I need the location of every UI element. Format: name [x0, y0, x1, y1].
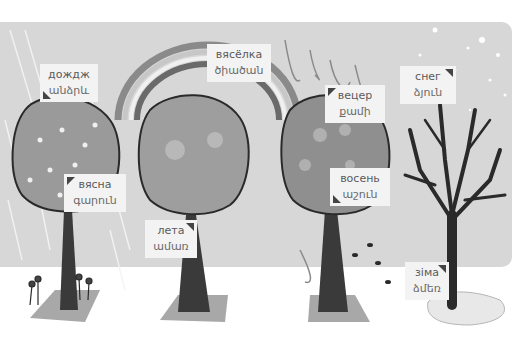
label-rainbow-hy: ծիածան	[213, 63, 265, 79]
label-autumn-ru: восень	[336, 171, 384, 187]
label-wind-ru: вецер	[331, 88, 379, 104]
label-snow-ru: снег	[406, 69, 450, 85]
summer-tree	[139, 95, 249, 312]
label-snow-hy: ձյուն	[406, 85, 450, 101]
label-wind-hy: քամի	[331, 104, 379, 120]
corner-marker-icon	[438, 265, 446, 273]
label-snow: снег ձյուն	[400, 66, 456, 104]
seasons-illustration: дождж անձրև вясёлка ծիածան вецер քամի сн…	[0, 0, 520, 350]
label-spring: вясна գարուն	[64, 174, 126, 212]
label-rain-hy: անձրև	[46, 83, 92, 99]
corner-marker-icon	[186, 223, 194, 231]
label-rainbow: вясёлка ծիածան	[207, 44, 271, 82]
label-rain: дождж անձրև	[40, 64, 98, 102]
label-autumn: восень աշուն	[330, 168, 390, 206]
label-wind: вецер քամի	[325, 85, 385, 123]
label-winter: зіма ձմեռ	[405, 262, 449, 300]
label-rain-ru: дождж	[46, 67, 92, 83]
corner-marker-icon	[445, 69, 453, 77]
label-autumn-hy: աշուն	[336, 187, 384, 203]
label-rainbow-ru: вясёлка	[213, 47, 265, 63]
label-summer: лета ամառ	[145, 220, 197, 258]
corner-marker-icon	[328, 88, 336, 96]
label-summer-ru: лета	[151, 223, 191, 239]
label-winter-hy: ձմեռ	[411, 281, 443, 297]
corner-marker-icon	[67, 177, 75, 185]
label-spring-hy: գարուն	[70, 193, 120, 209]
corner-marker-icon	[43, 91, 51, 99]
label-summer-hy: ամառ	[151, 239, 191, 255]
label-spring-ru: вясна	[70, 177, 120, 193]
corner-marker-icon	[333, 195, 341, 203]
